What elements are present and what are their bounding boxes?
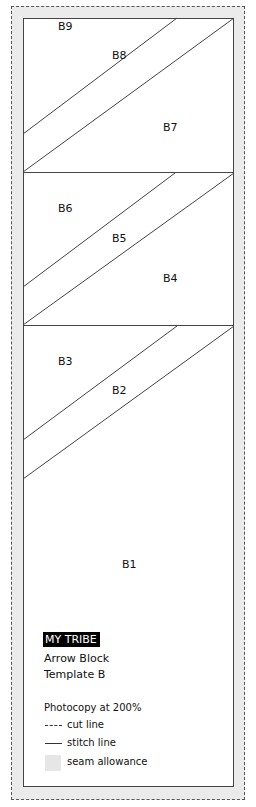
piece-label-b9: B9	[58, 20, 73, 33]
piece-label-b1: B1	[122, 558, 137, 571]
stitch-line-b2-b1	[23, 326, 234, 479]
stitch-line-legend-icon	[45, 743, 62, 744]
piece-label-b5: B5	[112, 232, 127, 245]
piece-label-b6: B6	[58, 202, 73, 215]
piece-label-b2: B2	[112, 384, 127, 397]
template-subtitle: Template B	[44, 668, 105, 681]
piece-label-b4: B4	[163, 272, 178, 285]
piece-label-b7: B7	[163, 121, 178, 134]
stitch-line-b8-b7	[23, 18, 234, 172]
pattern-template: B9 B8 B7 B6 B5 B4 B3 B2 B1 MY TRIBE Arro…	[0, 0, 256, 807]
piece-label-b3: B3	[58, 355, 73, 368]
piece-lines	[0, 0, 256, 807]
piece-label-b8: B8	[112, 49, 127, 62]
cut-line-legend-icon	[45, 725, 62, 726]
seam-allowance-swatch-icon	[45, 755, 61, 771]
stitch-line-b5-b4	[23, 173, 234, 325]
photocopy-instruction: Photocopy at 200%	[44, 701, 141, 714]
brand-badge: MY TRIBE	[43, 632, 100, 647]
legend-cut-line: cut line	[67, 718, 104, 731]
template-title: Arrow Block	[44, 652, 109, 665]
legend-seam-allowance: seam allowance	[67, 755, 148, 768]
legend-stitch-line: stitch line	[67, 736, 116, 749]
